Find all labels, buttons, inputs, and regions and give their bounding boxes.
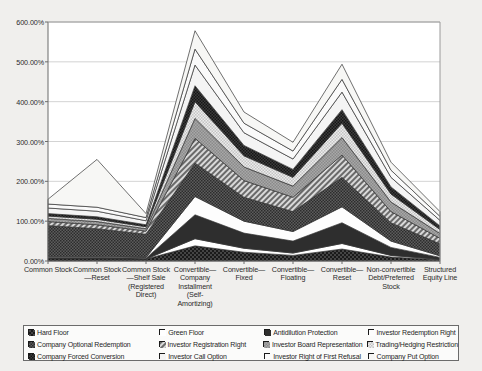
legend-swatch-icon <box>28 353 34 359</box>
legend-label: Company Optional Redemption <box>37 341 131 348</box>
y-axis-tick-label: 400.00% <box>0 98 44 107</box>
legend-swatch-icon <box>264 329 270 335</box>
legend-label: Antidilution Protection <box>273 329 337 336</box>
legend-swatch-icon <box>367 341 373 347</box>
legend-item[interactable]: Trading/Hedging Restriction <box>363 338 458 350</box>
legend-label: Investor Registration Right <box>168 341 246 348</box>
legend-row: Company Forced ConversionInvestor Call O… <box>24 350 458 362</box>
x-axis-category-label: Non-convertible Debt/Preferred Stock <box>366 266 416 291</box>
legend-item[interactable]: Investor Call Option <box>155 350 260 362</box>
legend-label: Investor Board Representation <box>272 341 363 348</box>
y-axis-tick-label: 100.00% <box>0 217 44 226</box>
x-axis-category-label: Convertible—Fixed <box>219 266 269 283</box>
legend-row: Company Optional RedemptionInvestor Regi… <box>24 338 458 350</box>
legend-swatch-icon <box>368 353 374 359</box>
y-axis-tick-label: 200.00% <box>0 177 44 186</box>
x-axis-category-label: Convertible—Company Installment (Self-Am… <box>170 266 220 308</box>
x-axis-category-label: Common Stock <box>23 266 73 274</box>
legend-label: Hard Floor <box>37 329 69 336</box>
legend-swatch-icon <box>28 329 34 335</box>
x-axis-category-label: Structured Equity Line <box>415 266 465 283</box>
legend-swatch-icon <box>368 329 374 335</box>
chart-legend: Hard FloorGreen FloorAntidilution Protec… <box>23 325 459 361</box>
legend-label: Investor Redemption Right <box>377 329 456 336</box>
stacked-area-chart: 0.00%100.00%200.00%300.00%400.00%500.00%… <box>0 0 482 371</box>
legend-item[interactable]: Hard Floor <box>24 326 155 338</box>
legend-swatch-icon <box>159 329 165 335</box>
x-axis-category-label: Convertible—Floating <box>268 266 318 283</box>
legend-label: Company Forced Conversion <box>37 353 124 360</box>
legend-item[interactable]: Investor Registration Right <box>155 338 259 350</box>
legend-item[interactable]: Investor Redemption Right <box>364 326 459 338</box>
legend-label: Company Put Option <box>377 353 439 360</box>
y-axis-tick-label: 300.00% <box>0 138 44 147</box>
legend-swatch-icon <box>159 341 165 347</box>
legend-swatch-icon <box>159 353 165 359</box>
legend-item[interactable]: Green Floor <box>155 326 260 338</box>
legend-label: Trading/Hedging Restriction <box>376 341 458 348</box>
legend-row: Hard FloorGreen FloorAntidilution Protec… <box>24 326 458 338</box>
x-axis-category-label: Convertible—Reset <box>317 266 367 283</box>
x-axis-category-label: Common Stock—Reset <box>72 266 122 283</box>
legend-item[interactable]: Investor Right of First Refusal <box>260 350 363 362</box>
legend-item[interactable]: Antidilution Protection <box>260 326 363 338</box>
x-axis-category-label: Common Stock—Shelf Sale (Registered Dire… <box>121 266 171 300</box>
legend-swatch-icon <box>263 341 269 347</box>
y-axis-tick-label: 600.00% <box>0 18 44 27</box>
legend-item[interactable]: Company Put Option <box>364 350 459 362</box>
y-axis-tick-label: 500.00% <box>0 58 44 67</box>
legend-swatch-icon <box>28 341 34 347</box>
legend-item[interactable]: Company Optional Redemption <box>24 338 155 350</box>
legend-item[interactable]: Company Forced Conversion <box>24 350 155 362</box>
legend-item[interactable]: Investor Board Representation <box>259 338 363 350</box>
legend-label: Green Floor <box>168 329 204 336</box>
legend-label: Investor Right of First Refusal <box>273 353 361 360</box>
legend-label: Investor Call Option <box>168 353 226 360</box>
legend-swatch-icon <box>264 353 270 359</box>
chart-canvas <box>0 0 482 371</box>
